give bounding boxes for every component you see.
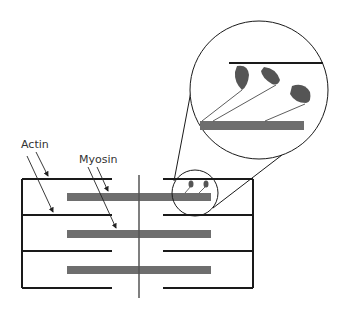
small-myosin-heads (185, 181, 209, 194)
connector-line-right (213, 155, 282, 208)
connector-line-left (174, 86, 192, 181)
magnified-myosin (200, 121, 304, 130)
actin-label: Actin (21, 138, 49, 151)
myosin-label: Myosin (79, 153, 118, 166)
sarcomere-diagram: Actin Myosin (0, 0, 343, 312)
